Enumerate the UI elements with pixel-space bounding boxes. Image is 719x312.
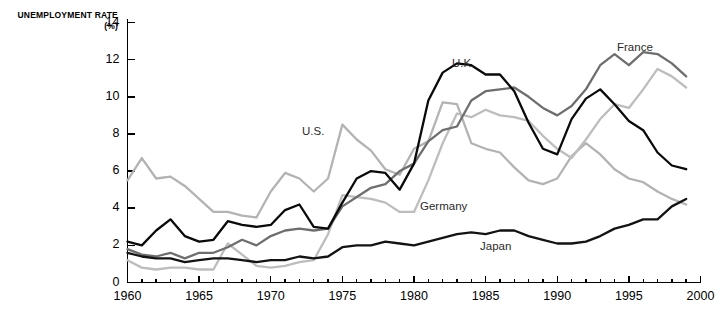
series-label-uk: U.K.: [452, 57, 474, 69]
y-axis-tick-label: 8: [94, 126, 120, 140]
y-axis-tick-label: 14: [94, 15, 120, 29]
y-axis-tick-label: 10: [94, 89, 120, 103]
y-axis-tick-label: 12: [94, 52, 120, 66]
x-axis-tick-label: 1970: [248, 289, 294, 303]
series-line-uk: [128, 63, 687, 245]
y-axis-tick-label: 2: [94, 237, 120, 251]
y-axis-tick-label: 6: [94, 163, 120, 177]
series-label-germany: Germany: [420, 200, 467, 212]
series-label-us: U.S.: [302, 125, 324, 137]
x-axis-tick-label: 1985: [463, 289, 509, 303]
series-label-france: France: [617, 41, 653, 53]
x-axis-tick-label: 1995: [606, 289, 652, 303]
series-label-japan: Japan: [480, 240, 511, 252]
x-axis-tick-label: 2000: [678, 289, 719, 303]
series-line-us: [128, 102, 687, 217]
x-axis-tick-label: 1965: [176, 289, 222, 303]
y-axis-tick-label: 4: [94, 200, 120, 214]
y-axis-tick-label: 0: [94, 275, 120, 289]
x-axis-tick-label: 1960: [105, 289, 151, 303]
x-axis-tick-label: 1980: [391, 289, 437, 303]
series-group: [128, 52, 687, 269]
x-axis-tick-label: 1990: [534, 289, 580, 303]
x-axis-tick-label: 1975: [319, 289, 365, 303]
